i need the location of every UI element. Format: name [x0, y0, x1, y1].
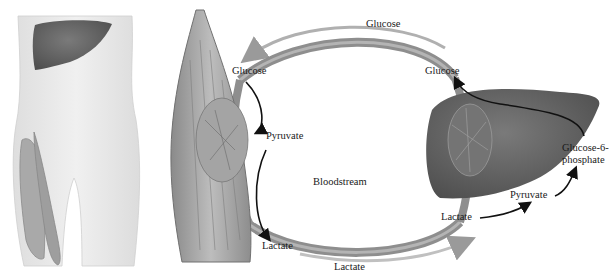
label-g6p-line1: Glucose-6- — [562, 142, 609, 153]
label-lactate-muscle: Lactate — [262, 240, 293, 251]
diagram-artwork — [0, 0, 615, 278]
label-lactate-liver: Lactate — [441, 211, 472, 222]
label-glucose-muscle: Glucose — [232, 65, 266, 76]
muscle-figure — [171, 10, 251, 262]
label-bloodstream: Bloodstream — [313, 176, 367, 187]
pyruvate-to-g6p-arrow — [555, 170, 575, 196]
pyruvate-to-lactate-arrow — [256, 150, 268, 238]
cori-cycle-diagram: Glucose Glucose Pyruvate Bloodstream Lac… — [0, 0, 615, 278]
label-g6p-line2: phosphate — [562, 154, 605, 165]
body-figure — [13, 16, 139, 266]
label-glucose-top: Glucose — [366, 18, 400, 29]
glucose-to-pyruvate-arrow — [246, 82, 262, 132]
label-pyruvate-muscle: Pyruvate — [266, 130, 303, 141]
lactate-to-pyruvate-arrow — [480, 204, 528, 218]
label-pyruvate-liver: Pyruvate — [510, 189, 547, 200]
label-glucose-liver: Glucose — [425, 65, 459, 76]
label-lactate-bottom: Lactate — [334, 261, 365, 272]
